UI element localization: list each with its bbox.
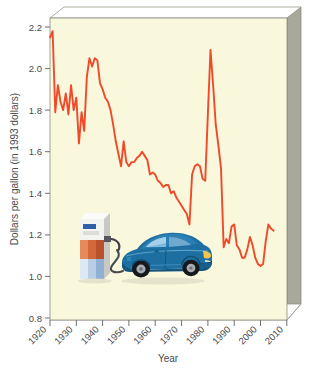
y-tick-label-1.8: 1.8 <box>29 105 42 116</box>
x-tick-label-1990: 1990 <box>210 324 233 347</box>
car-wheel-front <box>182 260 199 276</box>
y-tick-group <box>45 27 50 318</box>
x-axis: 1920 1930 1940 1950 1960 1970 1980 1990 … <box>26 320 287 346</box>
frame-right-panel <box>287 7 301 320</box>
y-tick-label-1.4: 1.4 <box>29 188 42 199</box>
y-tick-label-1.2: 1.2 <box>29 229 42 240</box>
x-tick-label-2000: 2000 <box>236 324 259 347</box>
x-tick-label-1980: 1980 <box>184 324 207 347</box>
x-axis-title: Year <box>158 353 179 364</box>
y-tick-label-1.6: 1.6 <box>29 146 42 157</box>
frame-top-panel <box>50 7 301 18</box>
chart-container: 2.2 2.0 1.8 1.6 1.4 1.2 1.0 0.8 <box>0 0 321 368</box>
y-axis: 2.2 2.0 1.8 1.6 1.4 1.2 1.0 0.8 <box>29 22 50 324</box>
x-tick-label-1950: 1950 <box>105 324 128 347</box>
x-tick-label-1920: 1920 <box>26 324 49 347</box>
x-tick-label-1970: 1970 <box>157 324 180 347</box>
y-axis-title: Dollars per gallon (in 1993 dollars) <box>9 93 20 245</box>
y-tick-label-0.8: 0.8 <box>29 313 42 324</box>
y-tick-label-2.0: 2.0 <box>29 63 42 74</box>
y-tick-label-2.2: 2.2 <box>29 22 42 33</box>
x-tick-label-1930: 1930 <box>52 324 75 347</box>
car-wheel-rear <box>132 261 150 278</box>
y-tick-label-1.0: 1.0 <box>29 271 42 282</box>
x-tick-label-1940: 1940 <box>78 324 101 347</box>
x-tick-label-2010: 2010 <box>262 324 285 347</box>
gasoline-price-line-chart: 2.2 2.0 1.8 1.6 1.4 1.2 1.0 0.8 <box>0 0 321 368</box>
x-tick-label-1960: 1960 <box>131 324 154 347</box>
